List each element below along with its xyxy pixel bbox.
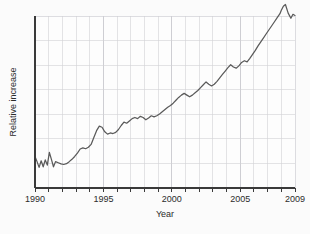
x-axis-title: Year	[156, 209, 174, 219]
x-tick-label: 2005	[230, 194, 250, 204]
x-tick-label: 2000	[162, 194, 182, 204]
x-tick-label: 1990	[25, 194, 45, 204]
x-tick-label: 2009	[285, 194, 305, 204]
x-tick-label: 1995	[93, 194, 113, 204]
relative-increase-line-chart: 19901995200020052009 Year Relative incre…	[0, 0, 310, 234]
y-axis-title: Relative increase	[8, 67, 18, 136]
plot-area-background	[35, 16, 295, 188]
